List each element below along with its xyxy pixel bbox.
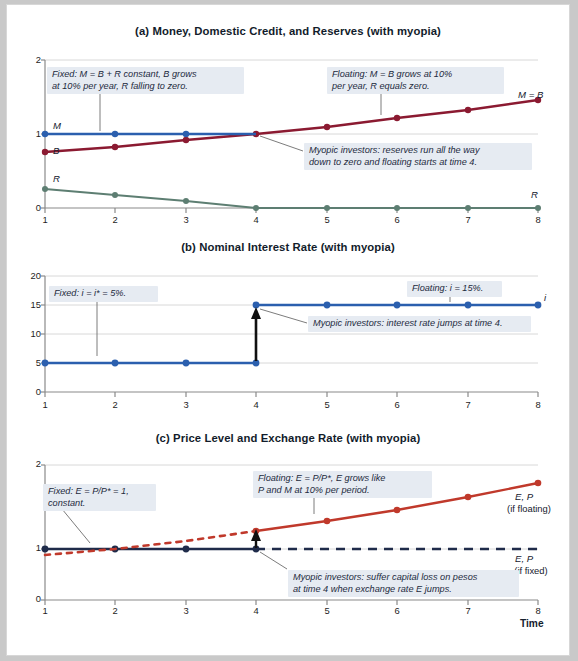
panel-c-note-fixed: Fixed: E = P/P* = 1, constant. [43, 484, 156, 511]
panel-b-title: (b) Nominal Interest Rate (with myopia) [7, 241, 569, 253]
panel-a-title: (a) Money, Domestic Credit, and Reserves… [7, 25, 569, 37]
panel-a-xtick-3: 3 [176, 214, 196, 225]
panel-b-ytick-20: 20 [19, 270, 41, 281]
panel-c-ytick-1: 1 [23, 542, 41, 553]
panel-a-ytick-0: 0 [23, 202, 41, 213]
panel-c-note-myopic: Myopic investors: suffer capital loss on… [288, 570, 519, 597]
panel-a-label-b: B [53, 145, 59, 156]
panel-b-note-floating: Floating: i = 15%. [407, 281, 502, 297]
panel-c-ytick-2: 2 [23, 458, 41, 469]
panel-c-note-floating: Floating: E = P/P*, E grows like P and M… [253, 471, 432, 498]
panel-b-xtick-8: 8 [528, 399, 548, 410]
panel-b-xtick-5: 5 [317, 399, 337, 410]
panel-a-label-r-end: R [531, 189, 538, 200]
panel-a-note-floating: Floating: M = B grows at 10% per year, R… [327, 67, 504, 94]
panel-b-ytick-0: 0 [19, 386, 41, 397]
panel-c-title: (c) Price Level and Exchange Rate (with … [7, 432, 569, 444]
panel-b-note-myopic: Myopic investors: interest rate jumps at… [308, 316, 531, 332]
panel-c-xtick-6: 6 [387, 605, 407, 616]
panel-b-xtick-6: 6 [387, 399, 407, 410]
panel-c-label-floating-1: E, P [515, 491, 533, 502]
panel-a-xtick-4: 4 [246, 214, 266, 225]
panel-c-xaxis-label: Time [520, 618, 544, 629]
panel-b-xtick-4: 4 [246, 399, 266, 410]
panel-b-xtick-7: 7 [458, 399, 478, 410]
panel-a-xtick-7: 7 [458, 214, 478, 225]
series-reserves [45, 189, 538, 208]
panel-a-label-r: R [53, 173, 60, 184]
panel-b-label-i: i [544, 292, 546, 303]
panel-a-xtick-2: 2 [105, 214, 125, 225]
panel-c-xtick-4: 4 [246, 605, 266, 616]
panel-a-ytick-1: 1 [23, 128, 41, 139]
panel-b-xtick-2: 2 [105, 399, 125, 410]
panel-c-label-fixed-1: E, P [515, 553, 533, 564]
panel-b-ytick-10: 10 [19, 328, 41, 339]
panel-a-xtick-5: 5 [317, 214, 337, 225]
panel-a-note-fixed: Fixed: M = B + R constant, B grows at 10… [47, 67, 244, 94]
panel-a-ytick-2: 2 [23, 54, 41, 65]
panel-b-note-fixed: Fixed: i = i* = 5%. [49, 286, 158, 302]
panel-c-xtick-3: 3 [176, 605, 196, 616]
panel-b-ytick-15: 15 [19, 299, 41, 310]
panel-c-xtick-7: 7 [458, 605, 478, 616]
panel-c-xtick-1: 1 [35, 605, 55, 616]
panel-b-ytick-5: 5 [19, 357, 41, 368]
panel-a-xtick-1: 1 [35, 214, 55, 225]
panel-c-xtick-5: 5 [317, 605, 337, 616]
panel-c-ytick-0: 0 [23, 593, 41, 604]
panel-b-xtick-1: 1 [35, 399, 55, 410]
panel-b-xtick-3: 3 [176, 399, 196, 410]
figure-page: (a) Money, Domestic Credit, and Reserves… [7, 5, 569, 655]
panel-a-label-m: M [53, 120, 61, 131]
panel-a-xtick-8: 8 [528, 214, 548, 225]
panel-a-label-mb: M = B [518, 89, 543, 100]
panel-c-xtick-2: 2 [105, 605, 125, 616]
panel-c-xtick-8: 8 [528, 605, 548, 616]
panel-c-label-floating-2: (if floating) [496, 503, 562, 514]
panel-a-note-myopic: Myopic investors: reserves run all the w… [304, 143, 532, 170]
series-price-dotted [45, 531, 256, 555]
panel-a-xtick-6: 6 [387, 214, 407, 225]
